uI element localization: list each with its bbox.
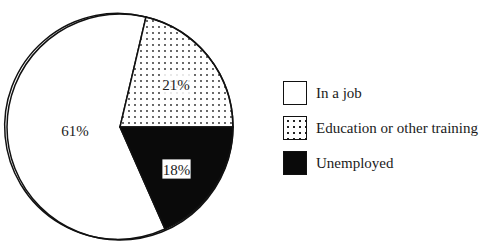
legend-swatch-white: [283, 81, 307, 105]
legend-swatch-black: [283, 151, 307, 175]
legend: In a job Education or other training Une…: [283, 80, 478, 185]
legend-item-education: Education or other training: [283, 115, 478, 141]
legend-item-in-a-job: In a job: [283, 80, 478, 106]
label-in-a-job: 61%: [61, 123, 89, 139]
legend-label: Unemployed: [316, 155, 393, 172]
legend-label: In a job: [316, 85, 362, 102]
legend-label: Education or other training: [316, 120, 478, 137]
legend-item-unemployed: Unemployed: [283, 150, 478, 176]
label-unemployed: 18%: [163, 162, 191, 178]
legend-swatch-dotted: [283, 116, 307, 140]
label-education: 21%: [162, 77, 190, 93]
